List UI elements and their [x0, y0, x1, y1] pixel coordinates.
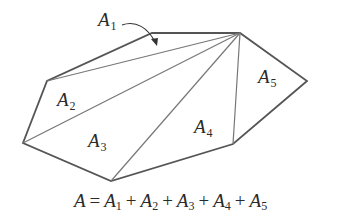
formula-plus-3: +	[194, 190, 213, 211]
formula-term-1: A	[104, 190, 116, 211]
formula-term-3: A	[177, 190, 189, 211]
polygon-area-diagram: A1 A2 A3 A4 A5 A=A1+A2+A3+A4+A5	[0, 0, 341, 219]
formula-term-4: A	[213, 190, 225, 211]
formula-equals: =	[85, 190, 104, 211]
region-label-a3: A3	[86, 130, 107, 154]
formula-sub-1: 1	[116, 199, 122, 213]
formula-plus-2: +	[158, 190, 177, 211]
region-label-a5: A5	[256, 66, 277, 90]
formula-term-2: A	[141, 190, 153, 211]
polygon-figure: A1 A2 A3 A4 A5	[0, 0, 341, 219]
formula-sub-5: 5	[261, 199, 267, 213]
formula-plus-4: +	[231, 190, 250, 211]
diagonal-1	[47, 33, 240, 81]
formula-sub-4: 4	[225, 199, 231, 213]
region-label-a4: A4	[192, 116, 213, 140]
formula-plus-1: +	[122, 190, 141, 211]
arrowhead-icon	[151, 38, 158, 46]
formula-term-5: A	[250, 190, 262, 211]
formula-lhs: A	[74, 190, 86, 211]
region-label-a2: A2	[55, 89, 76, 113]
diagonal-3	[111, 33, 240, 181]
region-label-a1: A1	[96, 9, 117, 33]
diagonal-4	[233, 33, 240, 144]
area-formula: A=A1+A2+A3+A4+A5	[0, 190, 341, 214]
